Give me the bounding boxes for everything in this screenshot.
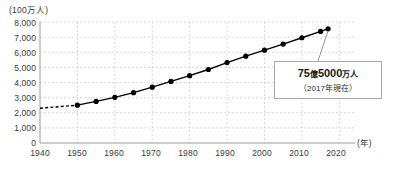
population-line-chart: (100万人) (年) 8,000 7,000 6,000 5,000 4,00…: [0, 0, 395, 173]
callout-value-num1: 75: [298, 67, 310, 79]
population-dashed-segment: [40, 105, 77, 108]
callout-subtext: （2017年現在）: [299, 82, 357, 93]
callout-value-kanji2: 万人: [342, 70, 358, 79]
callout-value: 75億5000万人: [298, 67, 359, 80]
callout-value-num2: 5000: [318, 67, 342, 79]
callout-leader-line: [318, 31, 328, 61]
callout-value-kanji1: 億: [310, 70, 318, 79]
population-callout: 75億5000万人 （2017年現在）: [274, 61, 382, 99]
